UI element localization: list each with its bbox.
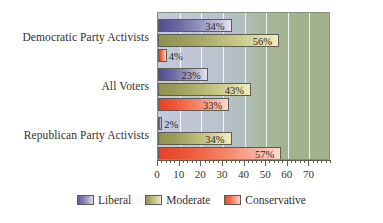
legend-swatch-moderate-icon [145, 195, 162, 205]
axis-tick-major [265, 160, 266, 166]
bar-value-label: 4% [169, 50, 183, 63]
axis-tick-minor [321, 160, 322, 163]
bar-value-label: 34% [205, 133, 224, 146]
legend-label-conservative: Conservative [245, 194, 306, 206]
axis-tick-major [222, 160, 223, 166]
bar-moderate-democratic-party-activists: 56% [158, 34, 279, 47]
axis-tick-major [200, 160, 201, 166]
legend-item-liberal: Liberal [77, 194, 131, 206]
axis-tick-minor [269, 160, 270, 163]
bar-conservative-all-voters: 33% [158, 98, 229, 111]
axis-tick-minor [295, 160, 296, 163]
legend-label-liberal: Liberal [98, 194, 131, 206]
x-axis-tick-label: 50 [260, 168, 271, 180]
axis-tick-major [287, 160, 288, 166]
x-axis-tick-label: 30 [216, 168, 227, 180]
x-axis [157, 160, 330, 167]
axis-tick-minor [278, 160, 279, 163]
bar-value-label: 43% [225, 84, 244, 97]
axis-tick-minor [183, 160, 184, 163]
axis-tick-major [308, 160, 309, 166]
axis-tick-minor [282, 160, 283, 163]
legend-item-moderate: Moderate [145, 194, 210, 206]
x-axis-tick-label: 60 [281, 168, 292, 180]
axis-tick-minor [161, 160, 162, 163]
x-axis-tick-label: 10 [173, 168, 184, 180]
gridline [288, 13, 289, 159]
axis-tick-minor [326, 160, 327, 163]
legend-swatch-liberal-icon [77, 195, 94, 205]
axis-tick-minor [304, 160, 305, 163]
axis-tick-major [179, 160, 180, 166]
axis-tick-minor [261, 160, 262, 163]
axis-tick-minor [174, 160, 175, 163]
axis-tick-minor [274, 160, 275, 163]
axis-tick-minor [170, 160, 171, 163]
axis-tick-minor [209, 160, 210, 163]
axis-tick-minor [192, 160, 193, 163]
legend-label-moderate: Moderate [166, 194, 210, 206]
bar-conservative-republican-party-activists: 57% [158, 147, 281, 160]
bar-moderate-republican-party-activists: 34% [158, 132, 232, 145]
axis-tick-minor [231, 160, 232, 163]
axis-tick-minor [313, 160, 314, 163]
bar-conservative-democratic-party-activists: 4% [158, 49, 167, 62]
legend-item-conservative: Conservative [224, 194, 306, 206]
bar-value-label: 56% [253, 35, 272, 48]
axis-tick-minor [256, 160, 257, 163]
bar-moderate-all-voters: 43% [158, 83, 251, 96]
axis-tick-minor [226, 160, 227, 163]
x-axis-tick-label: 20 [195, 168, 206, 180]
category-label-all-voters: All Voters [101, 80, 149, 92]
bar-value-label: 2% [164, 118, 178, 131]
bar-chart: Democratic Party Activists All Voters Re… [0, 0, 383, 223]
axis-tick-minor [248, 160, 249, 163]
bar-value-label: 23% [181, 69, 200, 82]
axis-tick-minor [187, 160, 188, 163]
plot-area: 34%56%4%23%43%33%2%34%57% [157, 12, 330, 160]
axis-tick-minor [213, 160, 214, 163]
category-label-republican-party-activists: Republican Party Activists [24, 129, 149, 141]
axis-tick-minor [317, 160, 318, 163]
x-axis-tick-label: 70 [303, 168, 314, 180]
axis-tick-minor [239, 160, 240, 163]
legend-swatch-conservative-icon [224, 195, 241, 205]
gridline [309, 13, 310, 159]
axis-tick-minor [218, 160, 219, 163]
bar-value-label: 34% [205, 20, 224, 33]
chart-legend: Liberal Moderate Conservative [0, 194, 383, 206]
axis-tick-minor [330, 160, 331, 163]
axis-tick-minor [166, 160, 167, 163]
x-axis-tick-label: 40 [238, 168, 249, 180]
axis-tick-minor [252, 160, 253, 163]
axis-tick-major [157, 160, 158, 166]
axis-tick-minor [300, 160, 301, 163]
axis-tick-major [244, 160, 245, 166]
axis-tick-minor [196, 160, 197, 163]
axis-tick-minor [205, 160, 206, 163]
axis-tick-minor [235, 160, 236, 163]
bar-liberal-republican-party-activists: 2% [158, 117, 162, 130]
axis-tick-minor [291, 160, 292, 163]
bar-value-label: 33% [203, 99, 222, 112]
x-axis-tick-label: 0 [154, 168, 160, 180]
category-label-democratic-party-activists: Democratic Party Activists [22, 31, 149, 43]
bar-value-label: 57% [255, 148, 274, 160]
bar-liberal-democratic-party-activists: 34% [158, 19, 232, 32]
bar-liberal-all-voters: 23% [158, 68, 208, 81]
